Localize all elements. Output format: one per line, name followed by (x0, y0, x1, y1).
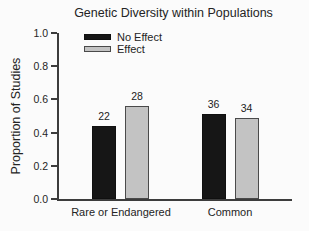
bar-count-label: 36 (199, 98, 229, 110)
bar-no-effect (92, 126, 116, 199)
y-axis-tick-label: 0.8 (21, 60, 48, 72)
y-axis-tick (51, 198, 57, 200)
y-axis-tick-label: 0.0 (21, 193, 48, 205)
y-axis-tick-label: 1.0 (21, 27, 48, 39)
y-axis-tick (51, 98, 57, 100)
bar-effect (125, 106, 149, 199)
y-axis-tick-label: 0.6 (21, 93, 48, 105)
legend-item-no-effect: No Effect (84, 31, 162, 43)
legend-item-effect: Effect (84, 43, 162, 55)
y-axis-tick (51, 132, 57, 134)
chart-figure: Genetic Diversity within Populations Pro… (0, 0, 309, 231)
plot-area: 1.00.80.60.40.20.022362834 (57, 33, 292, 201)
bar-count-label: 34 (232, 102, 262, 114)
y-axis-tick (51, 65, 57, 67)
y-axis-tick (51, 165, 57, 167)
no-effect-swatch-icon (84, 34, 111, 40)
y-axis-tick (51, 32, 57, 34)
y-axis-tick-label: 0.2 (21, 160, 48, 172)
y-axis-title: Proportion of Studies (9, 31, 23, 201)
chart-title: Genetic Diversity within Populations (57, 6, 290, 20)
legend: No Effect Effect (84, 31, 162, 55)
y-axis-tick-label: 0.4 (21, 127, 48, 139)
legend-label-effect: Effect (117, 43, 145, 55)
x-category-rare-or-endangered: Rare or Endangered (71, 206, 171, 218)
legend-label-no-effect: No Effect (117, 31, 162, 43)
bar-no-effect (202, 114, 226, 199)
bar-count-label: 22 (89, 110, 119, 122)
x-category-common: Common (208, 206, 253, 218)
effect-swatch-icon (84, 46, 111, 52)
bar-count-label: 28 (122, 90, 152, 102)
bar-effect (235, 118, 259, 199)
